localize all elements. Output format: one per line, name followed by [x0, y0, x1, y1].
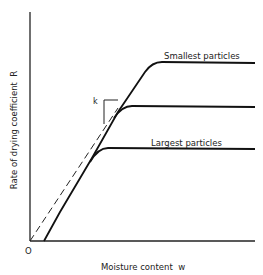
- x-axis-title: Moisture content w: [101, 262, 185, 272]
- curve-intermediate: [114, 106, 255, 118]
- dashed-slope-line: [30, 108, 118, 241]
- drying-rate-chart: k Smallest particles Largest particles O…: [0, 0, 263, 275]
- slope-label: k: [93, 97, 98, 106]
- y-axis-title: Rate of drying coefficient R: [9, 71, 19, 190]
- label-largest-particles: Largest particles: [151, 138, 222, 148]
- label-smallest-particles: Smallest particles: [164, 51, 240, 61]
- curve-largest: [90, 148, 255, 162]
- origin-label: O: [25, 246, 32, 256]
- curve-smallest: [44, 62, 255, 241]
